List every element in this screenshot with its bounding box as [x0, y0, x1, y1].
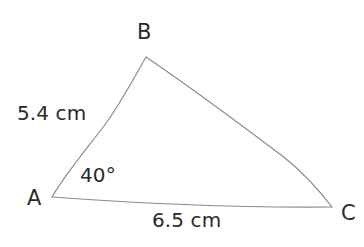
- side-ac-line: [52, 197, 332, 207]
- vertex-label-c: C: [341, 203, 356, 224]
- side-ac-measurement-label: 6.5 cm: [152, 210, 221, 230]
- side-bc-line: [146, 57, 332, 207]
- angle-a-measurement-label: 40°: [80, 165, 116, 185]
- side-ab-measurement-label: 5.4 cm: [17, 103, 86, 123]
- vertex-label-a: A: [27, 188, 41, 209]
- geometry-diagram: A B C 5.4 cm 6.5 cm 40°: [0, 0, 364, 247]
- vertex-label-b: B: [137, 22, 152, 43]
